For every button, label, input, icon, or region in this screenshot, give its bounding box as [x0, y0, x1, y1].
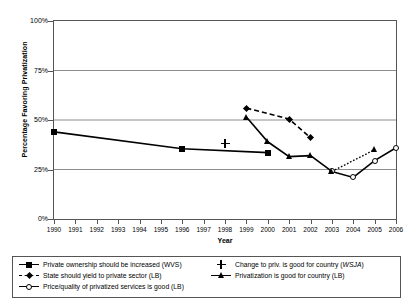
legend-label-text-tail: ) [361, 261, 363, 268]
x-tick-mark [75, 220, 76, 224]
x-tick-mark [268, 220, 269, 224]
legend-label: Change to priv. is good for country (WSJ… [235, 261, 364, 269]
legend-item[interactable]: Private ownership should be increased (W… [19, 260, 182, 269]
legend-line [211, 275, 231, 276]
circle-marker-icon [372, 158, 378, 164]
chart-legend: Private ownership should be increased (W… [12, 256, 401, 298]
privatization-support-chart: Percentage Favoring Privatization 0%25%5… [0, 0, 414, 307]
triangle-marker-icon [371, 146, 377, 152]
y-tick-label: 75% [6, 67, 48, 74]
diamond-marker-icon [286, 115, 293, 122]
x-tick-mark [97, 220, 98, 224]
diamond-marker-icon [243, 105, 250, 112]
x-tick-mark [140, 220, 141, 224]
y-tick-label: 100% [6, 17, 48, 24]
legend-label-text: Change to priv. is good for country ( [235, 261, 343, 268]
legend-label-source: WSJA [343, 261, 362, 268]
legend-swatch [19, 271, 39, 280]
legend-item[interactable]: Privatization is good for country (LB) [211, 271, 345, 280]
triangle-marker-icon [328, 168, 334, 174]
data-markers-layer [54, 21, 396, 219]
legend-swatch [211, 271, 231, 280]
x-tick-mark [118, 220, 119, 224]
circle-marker-icon [350, 174, 356, 180]
plus-marker-icon [221, 139, 230, 148]
x-tick-mark [182, 220, 183, 224]
square-marker-icon [265, 150, 271, 156]
legend-label: Price/quality of privatized services is … [43, 283, 184, 291]
x-tick-mark [396, 220, 397, 224]
triangle-marker-icon [243, 114, 249, 120]
x-tick-mark [353, 220, 354, 224]
legend-label: Private ownership should be increased (W… [43, 261, 182, 269]
legend-swatch [19, 282, 39, 291]
triangle-marker-icon [264, 138, 270, 144]
legend-swatch [19, 260, 39, 269]
legend-label: Privatization is good for country (LB) [235, 272, 345, 280]
square-marker-icon [179, 146, 185, 152]
legend-swatch [211, 260, 231, 269]
legend-line [19, 286, 39, 287]
legend-line [19, 275, 39, 276]
triangle-marker-icon [286, 153, 292, 159]
x-tick-mark [311, 220, 312, 224]
diamond-marker-icon [307, 134, 314, 141]
circle-marker-icon [329, 168, 335, 174]
plus-marker-icon [217, 260, 226, 269]
x-tick-mark [54, 220, 55, 224]
x-tick-mark [375, 220, 376, 224]
x-tick-mark [204, 220, 205, 224]
triangle-marker-icon [307, 152, 313, 158]
plot-area [53, 20, 397, 220]
x-axis-title: Year [53, 237, 397, 244]
square-marker-icon [51, 129, 57, 135]
y-tick-label: 0% [6, 215, 48, 222]
legend-item[interactable]: Change to priv. is good for country (WSJ… [211, 260, 364, 269]
legend-label: State should yield to private sector (LB… [43, 272, 162, 280]
x-tick-mark [161, 220, 162, 224]
circle-marker-icon [393, 145, 399, 151]
y-tick-label: 25% [6, 166, 48, 173]
x-tick-label: 2006 [381, 226, 411, 234]
x-tick-mark [246, 220, 247, 224]
legend-item[interactable]: Price/quality of privatized services is … [19, 282, 184, 291]
x-tick-mark [225, 220, 226, 224]
legend-item[interactable]: State should yield to private sector (LB… [19, 271, 162, 280]
x-tick-mark [332, 220, 333, 224]
y-tick-label: 50% [6, 116, 48, 123]
legend-line [19, 264, 39, 265]
x-tick-mark [289, 220, 290, 224]
